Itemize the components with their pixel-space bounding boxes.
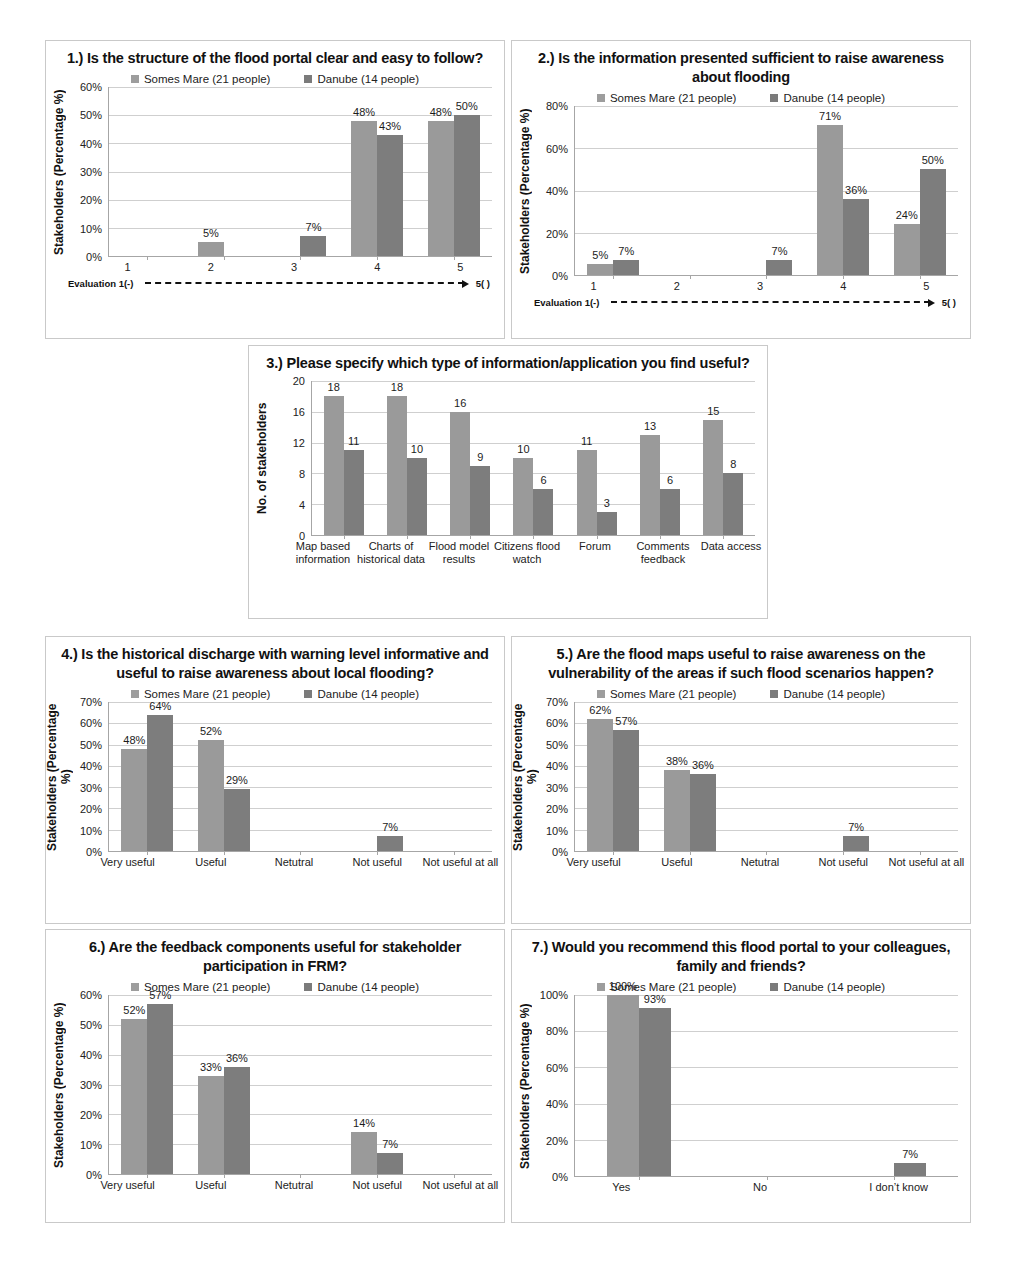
plot-area: No. of stakeholders 04812162018111810169… bbox=[249, 381, 767, 536]
chart-legend: Somes Mare (21 people) Danube (14 people… bbox=[512, 688, 970, 700]
y-tick-label: 40% bbox=[546, 1098, 568, 1110]
bar-danube: 7% bbox=[377, 1153, 403, 1174]
bar-somes-mare: 11 bbox=[577, 450, 597, 535]
bar-danube: 7% bbox=[377, 836, 403, 851]
y-tick-label: 0% bbox=[552, 270, 568, 282]
bar-group: 48%43% bbox=[339, 87, 416, 256]
bar-group: 7% bbox=[830, 995, 958, 1176]
bar-somes-mare: 62% bbox=[587, 719, 613, 851]
x-tick-mark bbox=[300, 1174, 301, 1178]
legend-label-somes-mare: Somes Mare (21 people) bbox=[144, 688, 271, 700]
x-tick-mark bbox=[920, 851, 921, 855]
bar-group: 48%64% bbox=[109, 702, 186, 851]
bar-series-container: 48%64%52%29%7% bbox=[109, 702, 492, 851]
bar-group: 48%50% bbox=[415, 87, 492, 256]
bar-value-label: 14% bbox=[353, 1117, 375, 1129]
bar-value-label: 93% bbox=[644, 993, 666, 1005]
x-axis-label: Not useful bbox=[802, 856, 885, 869]
bar-somes-mare: 24% bbox=[894, 224, 920, 275]
y-tick-label: 50% bbox=[80, 739, 102, 751]
x-axis-label: Useful bbox=[169, 856, 252, 869]
bar-group bbox=[262, 995, 339, 1174]
x-tick-mark bbox=[639, 1176, 640, 1180]
chart-panel-q2: 2.) Is the information presented suffici… bbox=[511, 40, 971, 339]
y-axis-ticks: 048121620 bbox=[271, 381, 309, 536]
y-tick-label: 10% bbox=[80, 1139, 102, 1151]
y-tick-label: 0% bbox=[86, 251, 102, 263]
y-tick-label: 10% bbox=[80, 223, 102, 235]
x-axis-label: 4 bbox=[336, 261, 419, 274]
x-axis-labels: Very usefulUsefulNetutralNot usefulNot u… bbox=[86, 856, 502, 869]
y-tick-label: 30% bbox=[80, 782, 102, 794]
plot-canvas: 5%7%48%43%48%50% bbox=[108, 87, 492, 257]
x-axis-label: Yes bbox=[552, 1181, 691, 1194]
bar-value-label: 48% bbox=[430, 106, 452, 118]
bar-value-label: 36% bbox=[845, 184, 867, 196]
x-axis-labels: Very usefulUsefulNetutralNot usefulNot u… bbox=[86, 1179, 502, 1192]
bar-danube: 7% bbox=[843, 836, 869, 851]
bar-group: 7% bbox=[728, 106, 805, 275]
figure-page: 1.) Is the structure of the flood portal… bbox=[0, 0, 1010, 1264]
bar-group: 7% bbox=[262, 87, 339, 256]
bar-value-label: 10 bbox=[517, 443, 529, 455]
bar-value-label: 3 bbox=[604, 497, 610, 509]
bar-danube: 9 bbox=[470, 466, 490, 535]
bar-somes-mare: 48% bbox=[121, 749, 147, 851]
y-tick-label: 60% bbox=[546, 143, 568, 155]
bar-value-label: 50% bbox=[456, 100, 478, 112]
legend-entry-danube: Danube (14 people) bbox=[770, 981, 885, 993]
y-tick-label: 20 bbox=[293, 375, 305, 387]
bar-value-label: 6 bbox=[667, 474, 673, 486]
legend-label-danube: Danube (14 people) bbox=[317, 981, 419, 993]
y-axis-title: Stakeholders (Percentage %) bbox=[516, 995, 534, 1177]
bar-group: 100%93% bbox=[575, 995, 703, 1176]
bar-value-label: 43% bbox=[379, 120, 401, 132]
bar-value-label: 7% bbox=[382, 821, 398, 833]
x-tick-mark bbox=[147, 851, 148, 855]
legend-swatch-icon-somes-mare bbox=[131, 690, 139, 698]
bar-value-label: 52% bbox=[200, 725, 222, 737]
y-axis-title: Stakeholders (Percentage %) bbox=[50, 995, 68, 1175]
bar-somes-mare: 13 bbox=[640, 435, 660, 535]
legend-entry-danube: Danube (14 people) bbox=[770, 92, 885, 104]
chart-legend: Somes Mare (21 people) Danube (14 people… bbox=[512, 981, 970, 993]
y-tick-label: 30% bbox=[80, 1079, 102, 1091]
x-axis-label: Charts of historical data bbox=[357, 540, 425, 565]
bar-danube: 6 bbox=[533, 489, 553, 535]
bar-somes-mare: 18 bbox=[324, 396, 344, 535]
bar-danube: 50% bbox=[920, 169, 946, 275]
y-axis-ticks: 0%10%20%30%40%50%60%70% bbox=[534, 702, 572, 852]
x-axis-label: Useful bbox=[635, 856, 718, 869]
legend-label-somes-mare: Somes Mare (21 people) bbox=[144, 73, 271, 85]
bar-group bbox=[881, 702, 958, 851]
chart-title: 3.) Please specify which type of informa… bbox=[249, 346, 767, 375]
y-tick-label: 4 bbox=[299, 499, 305, 511]
bar-group bbox=[652, 106, 729, 275]
evaluation-scale: Evaluation 1(-) 5( ) bbox=[46, 274, 504, 289]
legend-swatch-icon-somes-mare bbox=[597, 690, 605, 698]
x-axis-label: No bbox=[691, 1181, 830, 1194]
y-tick-label: 70% bbox=[80, 696, 102, 708]
x-axis-label: Not useful bbox=[336, 856, 419, 869]
x-tick-mark bbox=[766, 275, 767, 279]
x-tick-mark bbox=[407, 535, 408, 539]
bar-value-label: 52% bbox=[123, 1004, 145, 1016]
chart-panel-q3: 3.) Please specify which type of informa… bbox=[248, 345, 768, 619]
bar-value-label: 71% bbox=[819, 110, 841, 122]
bar-somes-mare: 5% bbox=[198, 242, 224, 256]
x-axis-label: Netutral bbox=[252, 856, 335, 869]
x-axis-label: Forum bbox=[561, 540, 629, 565]
bar-value-label: 11 bbox=[581, 435, 592, 447]
bar-group: 136 bbox=[628, 381, 691, 535]
axis-area: 0%10%20%30%40%50%60%52%57%33%36%14%7% bbox=[68, 995, 494, 1175]
bar-value-label: 48% bbox=[353, 106, 375, 118]
y-axis-ticks: 0%20%40%60%80%100% bbox=[534, 995, 572, 1177]
y-tick-label: 20% bbox=[80, 194, 102, 206]
y-tick-label: 20% bbox=[546, 228, 568, 240]
bar-danube: 8 bbox=[723, 473, 743, 535]
legend-swatch-icon-danube bbox=[770, 690, 778, 698]
bar-danube: 93% bbox=[639, 1008, 671, 1176]
bar-somes-mare: 10 bbox=[513, 458, 533, 535]
x-axis-label: 3 bbox=[252, 261, 335, 274]
arrow-right-icon bbox=[145, 282, 463, 285]
